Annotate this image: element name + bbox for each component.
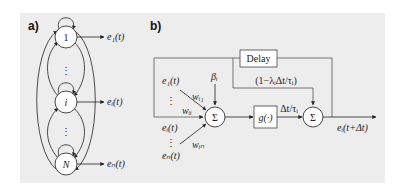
output-eN: eₙ(t): [107, 158, 126, 170]
output-ei: eᵢ(t): [107, 96, 123, 108]
bias-label: βᵢ: [210, 71, 218, 82]
output-label: eᵢ(t+Δt): [337, 122, 369, 134]
weight-wiN: wᵢₙ: [192, 139, 205, 150]
node-outputs: [77, 37, 104, 164]
node-N: N: [55, 153, 77, 175]
ellipsis-a-bottom: ⋮: [61, 126, 71, 137]
output-e1: e₁(t): [107, 31, 125, 43]
node-N-label: N: [62, 159, 71, 170]
ellipsis-a-top: ⋮: [61, 65, 71, 76]
gain-label: Δt/τᵢ: [280, 103, 298, 114]
node-1: 1: [55, 26, 77, 48]
activation-label: g(·): [258, 112, 273, 124]
sum-2-symbol: Σ: [310, 112, 316, 123]
input-ei-label: eᵢ(t): [162, 122, 178, 134]
node-i: i: [55, 91, 77, 113]
input-e1-label: e₁(t): [162, 75, 180, 87]
decay-label: (1−λᵢΔt/τᵢ): [255, 75, 296, 87]
node-i-label: i: [65, 97, 68, 108]
weight-wi1: wᵢ₁: [192, 91, 204, 102]
input-eN-label: eₙ(t): [162, 150, 181, 162]
weight-wii: wᵢᵢ: [182, 105, 192, 116]
ellipsis-b-bottom: ⋮: [166, 137, 176, 148]
node-1-label: 1: [64, 32, 69, 43]
feedback-to-sum: [154, 58, 240, 117]
panel-b-tag: b): [150, 19, 161, 33]
ellipsis-b-top: ⋮: [166, 95, 176, 106]
diagram: a) 1 i N ⋮ ⋮ e₁(t): [0, 0, 393, 192]
delay-label: Delay: [247, 53, 271, 64]
sum-1-symbol: Σ: [212, 112, 218, 123]
panel-a-tag: a): [28, 19, 39, 33]
